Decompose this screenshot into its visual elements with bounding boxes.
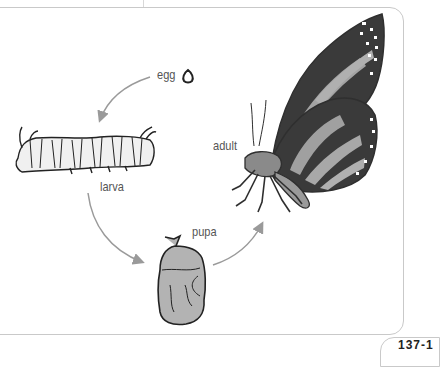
arrow-pupa-to-adult (213, 224, 262, 265)
adult-label: adult (213, 138, 237, 153)
butterfly-icon (232, 14, 384, 212)
pupa-icon (158, 236, 205, 325)
arrow-larva-to-pupa (88, 193, 142, 262)
arrow-egg-to-larva (100, 77, 150, 120)
pupa-label: pupa (192, 224, 217, 239)
egg-icon (183, 70, 193, 83)
egg-label: egg (157, 67, 175, 82)
larva-icon (16, 127, 156, 174)
larva-label: larva (100, 179, 124, 194)
